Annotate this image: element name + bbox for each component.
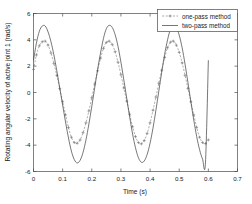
- x-tick-label: 0.1: [58, 175, 67, 182]
- y-tick-label: -4: [25, 141, 31, 148]
- x-tick-label: 0.3: [117, 175, 126, 182]
- y-tick-label: 6: [27, 10, 31, 17]
- y-tick-label: -2: [25, 115, 31, 122]
- legend-label-two-pass: two-pass method: [182, 22, 230, 30]
- x-tick-label: 0.4: [146, 175, 155, 182]
- x-tick-label: 0.7: [233, 175, 242, 182]
- x-tick-label: 0.6: [204, 175, 213, 182]
- y-tick-label: 0: [27, 89, 31, 96]
- x-tick-label: 0.2: [87, 175, 96, 182]
- legend-label-one-pass: one-pass method: [182, 13, 231, 21]
- y-tick-label: 2: [27, 62, 31, 69]
- x-tick-label: 0.5: [175, 175, 184, 182]
- plot-canvas: 00.10.20.30.40.50.60.7 6420-2-4-6 Time (…: [0, 0, 252, 204]
- x-axis-title: Time (s): [123, 188, 147, 196]
- chart-figure: 00.10.20.30.40.50.60.7 6420-2-4-6 Time (…: [0, 0, 252, 204]
- y-axis-title: Rotating angular velocity of active join…: [4, 23, 12, 162]
- x-tick-label: 0: [32, 175, 36, 182]
- chart-legend: one-pass method two-pass method: [158, 10, 238, 32]
- y-tick-label: 4: [27, 36, 31, 43]
- y-tick-label: -6: [25, 168, 31, 175]
